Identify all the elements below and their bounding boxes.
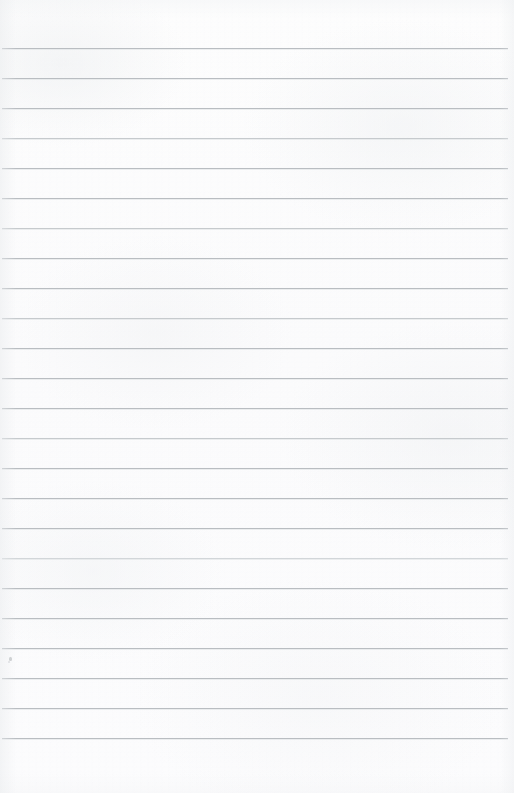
pencil-dot-mark: [9, 657, 12, 661]
rule-line: [2, 438, 508, 439]
rule-line: [2, 588, 508, 589]
rule-line: [2, 708, 508, 709]
rule-line: [2, 198, 508, 199]
rule-line: [2, 228, 508, 229]
rule-line: [2, 318, 508, 319]
rule-line: [2, 378, 508, 379]
rule-line: [2, 498, 508, 499]
rule-line: [2, 648, 508, 649]
rule-line: [2, 528, 508, 529]
rule-line: [2, 288, 508, 289]
rule-line: [2, 78, 508, 79]
rule-line: [2, 348, 508, 349]
rule-line: [2, 258, 508, 259]
ruled-lines-area: [0, 0, 514, 793]
rule-line: [2, 408, 508, 409]
rule-line: [2, 558, 508, 559]
notebook-page: [0, 0, 514, 793]
rule-line: [2, 168, 508, 169]
bottom-margin: [0, 743, 514, 793]
rule-line: [2, 138, 508, 139]
rule-line: [2, 48, 508, 49]
rule-line: [2, 678, 508, 679]
rule-line: [2, 618, 508, 619]
rule-line: [2, 468, 508, 469]
rule-line: [2, 108, 508, 109]
rule-line: [2, 738, 508, 739]
